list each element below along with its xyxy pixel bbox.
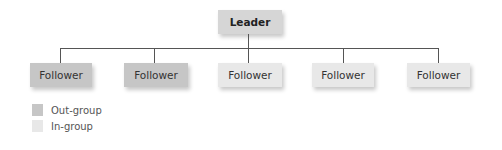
follower-5-connector [438, 48, 439, 63]
legend-in-group: In-group [32, 120, 93, 132]
follower-label: Follower [228, 69, 272, 81]
follower-label: Follower [417, 69, 461, 81]
leader-label: Leader [230, 16, 271, 28]
follower-1-connector [60, 48, 61, 63]
follower-4-connector [343, 48, 344, 63]
horizontal-connector-line [60, 48, 439, 49]
leader-box: Leader [218, 10, 282, 34]
legend-out-group: Out-group [32, 104, 102, 116]
out-group-swatch [32, 104, 43, 116]
follower-label: Follower [321, 69, 365, 81]
follower-2-connector [154, 48, 155, 63]
follower-box-in-group: Follower [312, 63, 374, 87]
follower-label: Follower [39, 69, 83, 81]
legend-label: In-group [51, 121, 93, 132]
follower-box-in-group: Follower [407, 63, 470, 87]
follower-box-out-group: Follower [124, 63, 188, 87]
legend-label: Out-group [51, 105, 102, 116]
follower-3-connector [248, 48, 249, 63]
leader-vertical-line [248, 34, 249, 48]
in-group-swatch [32, 120, 43, 132]
follower-box-in-group: Follower [218, 63, 282, 87]
follower-box-out-group: Follower [30, 63, 92, 87]
follower-label: Follower [134, 69, 178, 81]
org-diagram: Leader Follower Follower Follower Follow… [0, 0, 502, 150]
